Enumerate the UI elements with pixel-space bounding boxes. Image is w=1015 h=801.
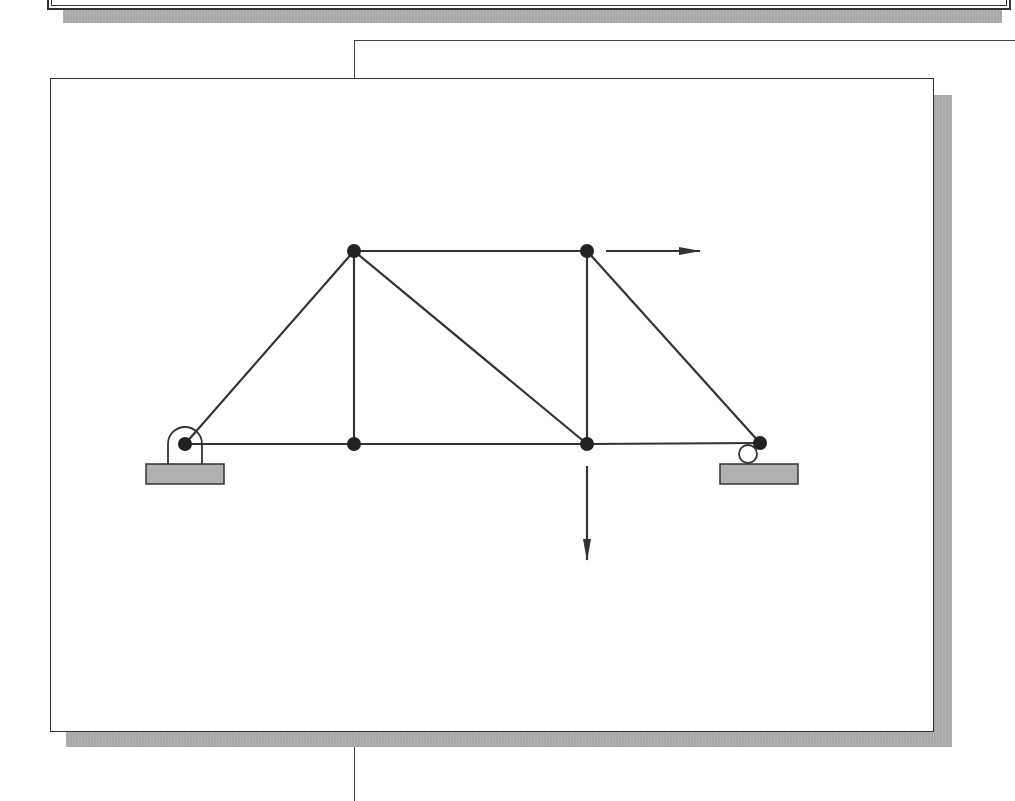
truss-joints — [178, 244, 767, 451]
joint-E — [347, 244, 361, 258]
truss-member — [587, 251, 760, 443]
joint-B — [347, 437, 361, 451]
truss-supports — [146, 427, 798, 484]
support-base — [146, 464, 224, 484]
support-base — [720, 464, 798, 484]
truss-member — [587, 443, 760, 444]
truss-member — [354, 251, 587, 444]
joint-F — [580, 244, 594, 258]
truss-loads — [587, 251, 700, 560]
joint-A — [178, 437, 192, 451]
truss-members — [185, 251, 760, 444]
roller-support-icon — [739, 445, 757, 463]
joint-D — [753, 436, 767, 450]
joint-C — [580, 437, 594, 451]
truss-member — [185, 251, 354, 444]
